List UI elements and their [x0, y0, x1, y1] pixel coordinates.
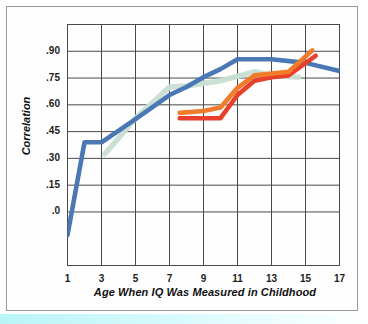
y-tick-label: .0	[30, 205, 60, 216]
x-tick-label: 1	[53, 273, 83, 284]
x-tick-label: 11	[223, 273, 253, 284]
x-tick-label: 9	[189, 273, 219, 284]
bottom-color-strip	[0, 314, 368, 324]
y-tick-label: .45	[30, 125, 60, 136]
x-axis-title: Age When IQ Was Measured in Childhood	[60, 286, 350, 298]
y-tick-label: .75	[30, 72, 60, 83]
y-axis-title: Correlation	[20, 86, 32, 166]
x-tick-label: 15	[291, 273, 321, 284]
x-tick-label: 3	[87, 273, 117, 284]
x-tick-label: 13	[257, 273, 287, 284]
y-tick-label: .90	[30, 45, 60, 56]
y-tick-label: .15	[30, 179, 60, 190]
x-tick-label: 7	[155, 273, 185, 284]
y-tick-label: .30	[30, 152, 60, 163]
y-tick-label: .60	[30, 98, 60, 109]
chart-figure: .90.75.60.45.30.15.0 1357911131517 Age W…	[0, 0, 368, 324]
x-tick-label: 17	[325, 273, 355, 284]
x-tick-label: 5	[121, 273, 151, 284]
